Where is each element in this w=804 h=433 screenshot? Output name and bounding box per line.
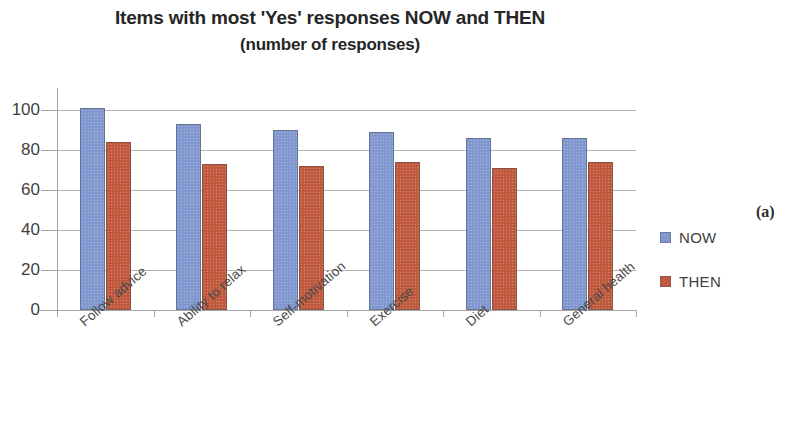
y-axis-labels: 020406080100 [0,90,40,310]
x-axis-tick-mark [636,310,637,317]
gridline [57,190,636,191]
y-axis-tick-mark [41,230,57,231]
x-axis-tick-mark [443,310,444,317]
y-axis-tick-label: 0 [2,300,40,320]
bar-now-0 [80,108,105,310]
legend-item-then: THEN [660,272,770,290]
legend-swatch-icon [660,276,671,287]
plot-wrapper: 020406080100 Follow adviceAbility to rel… [0,0,804,433]
x-axis-tick-mark [250,310,251,317]
x-axis-tick-mark [347,310,348,317]
legend-label: THEN [679,273,721,290]
y-axis-tick-label: 40 [2,220,40,240]
figure-caption: (a) [756,203,775,221]
legend-swatch-icon [660,232,671,243]
bar-now-3 [369,132,394,310]
y-axis-tick-label: 20 [2,260,40,280]
gridline [57,230,636,231]
figure-container: Items with most 'Yes' responses NOW and … [0,0,804,433]
legend-label: NOW [679,229,717,246]
x-axis-tick-mark [57,310,58,317]
y-axis-tick-label: 80 [2,140,40,160]
y-axis-tick-mark [41,270,57,271]
gridline [57,150,636,151]
x-axis-tick-mark [154,310,155,317]
gridline [57,110,636,111]
bar-now-1 [176,124,201,310]
legend-item-now: NOW [660,228,770,246]
x-axis-line [40,310,637,311]
bar-now-5 [562,138,587,310]
y-axis-tick-mark [41,190,57,191]
y-axis-tick-mark [41,150,57,151]
bar-now-4 [466,138,491,310]
y-axis-tick-mark [41,110,57,111]
bar-now-2 [273,130,298,310]
x-axis-tick-mark [540,310,541,317]
y-axis-tick-label: 60 [2,180,40,200]
y-axis-tick-label: 100 [2,100,40,120]
bar-then-4 [492,168,517,310]
chart-legend: NOWTHEN [660,228,770,316]
